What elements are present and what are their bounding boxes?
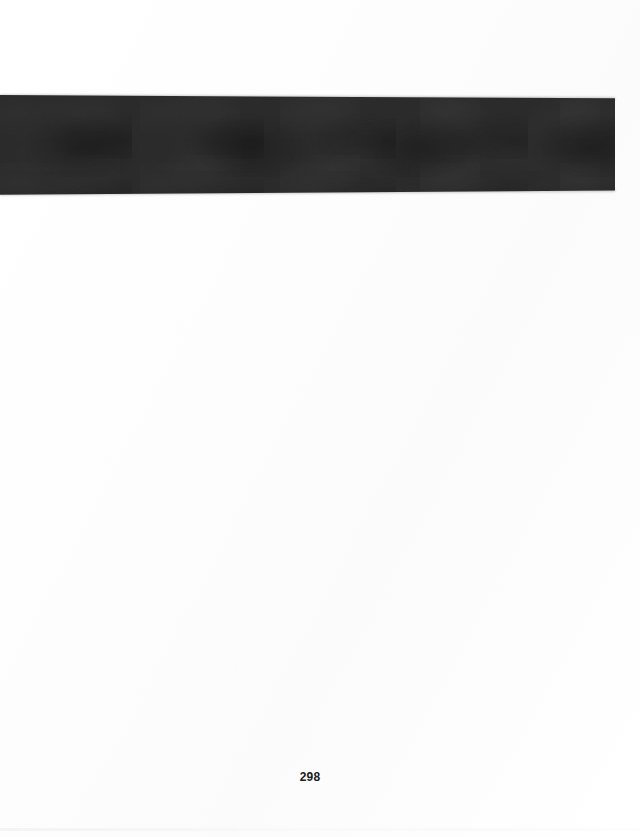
page-number: 298 bbox=[0, 770, 640, 784]
bottom-scan-smudge bbox=[0, 828, 640, 831]
scanned-page: 298 bbox=[0, 0, 640, 837]
dark-block-region bbox=[0, 93, 615, 199]
dark-block-fill bbox=[0, 93, 615, 199]
